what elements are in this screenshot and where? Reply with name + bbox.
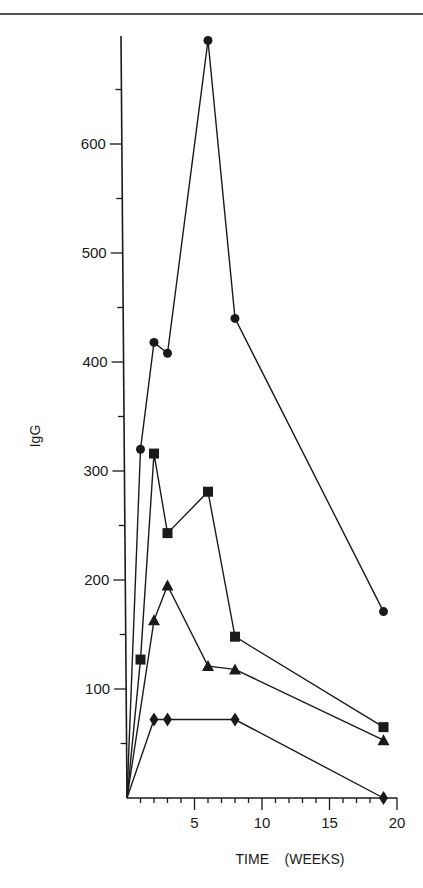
triangle-marker	[378, 734, 390, 745]
y-tick-label: 400	[83, 353, 108, 370]
square-marker	[379, 722, 389, 732]
series-line	[127, 720, 384, 798]
y-tick-label: 500	[82, 244, 107, 261]
y-tick-label: 300	[83, 462, 108, 479]
triangle-marker	[148, 614, 160, 625]
diamond-marker	[379, 791, 388, 805]
y-tick-label: 600	[81, 135, 106, 152]
series-line	[127, 454, 384, 798]
series-triangle	[127, 579, 390, 798]
x-tick-label: 15	[321, 814, 338, 831]
x-tick-label: 20	[389, 814, 406, 831]
circle-marker	[231, 314, 240, 323]
series-square	[127, 449, 389, 798]
series-group	[127, 36, 390, 805]
axes: 1002003004005006005101520	[81, 36, 406, 831]
y-axis-label: IgG	[27, 425, 43, 448]
triangle-marker	[162, 579, 174, 590]
y-tick-label: 200	[84, 571, 109, 588]
circle-marker	[150, 338, 159, 347]
igg-line-chart: 1002003004005006005101520 IgG TIME (WEEK…	[0, 0, 423, 888]
circle-marker	[204, 36, 213, 45]
square-marker	[163, 528, 173, 538]
diamond-marker	[231, 713, 240, 727]
square-marker	[136, 655, 146, 665]
y-tick-label: 100	[85, 680, 110, 697]
circle-marker	[136, 445, 145, 454]
square-marker	[203, 487, 213, 497]
diamond-marker	[150, 713, 159, 727]
circle-marker	[379, 607, 388, 616]
circle-marker	[163, 349, 172, 358]
diamond-marker	[163, 713, 172, 727]
triangle-marker	[202, 660, 214, 671]
x-axis-label: TIME (WEEKS)	[236, 851, 345, 867]
x-tick-label: 5	[190, 814, 198, 831]
x-tick-label: 10	[254, 814, 271, 831]
square-marker	[149, 449, 159, 459]
square-marker	[230, 632, 240, 642]
series-line	[127, 585, 384, 798]
series-circle	[127, 36, 388, 798]
series-line	[127, 40, 384, 798]
series-diamond	[127, 713, 388, 805]
